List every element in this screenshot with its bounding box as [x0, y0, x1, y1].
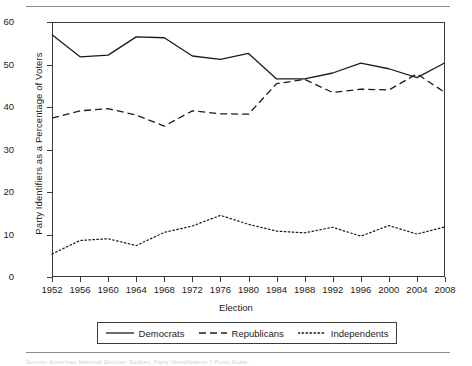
- x-tick-mark: [305, 277, 306, 282]
- x-tick-mark: [164, 277, 165, 282]
- y-tick-label: 20: [0, 186, 14, 197]
- legend: DemocratsRepublicansIndependents: [97, 322, 397, 344]
- x-tick-mark: [445, 277, 446, 282]
- legend-item-republicans[interactable]: Republicans: [199, 328, 284, 339]
- y-tick-label: 30: [0, 144, 14, 155]
- x-tick-mark: [108, 277, 109, 282]
- y-axis-title: Party Identifiers as a Percentage of Vot…: [33, 19, 44, 269]
- x-tick-mark: [333, 277, 334, 282]
- legend-item-democrats[interactable]: Democrats: [106, 328, 185, 339]
- legend-swatch-dotted-icon: [298, 329, 326, 337]
- x-tick-mark: [389, 277, 390, 282]
- figure-caption-ghost: Source: American National Election Studi…: [26, 358, 450, 366]
- x-tick-mark: [249, 277, 250, 282]
- y-tick-label: 60: [0, 16, 14, 27]
- series-layer: [52, 22, 445, 277]
- legend-swatch-solid-icon: [106, 329, 134, 337]
- x-tick-mark: [417, 277, 418, 282]
- series-line-republicans: [52, 74, 445, 126]
- x-tick-mark: [80, 277, 81, 282]
- x-tick-mark: [192, 277, 193, 282]
- legend-label: Independents: [331, 328, 389, 339]
- y-tick-label: 50: [0, 59, 14, 70]
- legend-swatch-dashed-icon: [199, 329, 227, 337]
- x-tick-mark: [220, 277, 221, 282]
- x-tick-mark: [52, 277, 53, 282]
- y-tick-label: 0: [0, 271, 14, 282]
- legend-label: Republicans: [232, 328, 284, 339]
- page-rule-bottom: [26, 352, 450, 353]
- page-rule-top: [26, 6, 450, 7]
- figure-chart: Party Identifiers as a Percentage of Vot…: [0, 10, 472, 350]
- y-tick-label: 10: [0, 229, 14, 240]
- x-tick-label: 2008: [425, 284, 465, 295]
- x-tick-mark: [361, 277, 362, 282]
- legend-label: Democrats: [139, 328, 185, 339]
- x-tick-mark: [136, 277, 137, 282]
- x-tick-mark: [277, 277, 278, 282]
- series-line-independents: [52, 215, 445, 254]
- y-tick-label: 40: [0, 101, 14, 112]
- series-line-democrats: [52, 35, 445, 79]
- legend-item-independents[interactable]: Independents: [298, 328, 389, 339]
- x-axis-title: Election: [0, 302, 472, 313]
